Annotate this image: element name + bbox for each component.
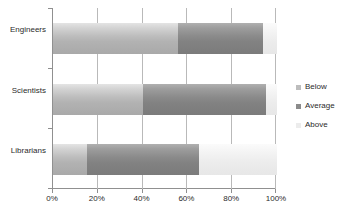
x-tick-60 <box>186 189 187 193</box>
legend-item-average[interactable]: Average <box>296 101 342 111</box>
bar-segment-above <box>199 144 277 175</box>
bar-segment-below <box>53 23 178 54</box>
bar-segment-below <box>53 144 87 175</box>
category-label-engineers: Engineers <box>10 25 46 35</box>
bar-row-engineers <box>53 23 277 54</box>
x-tick-40 <box>142 189 143 193</box>
legend-swatch-icon <box>296 123 301 128</box>
legend-item-label: Below <box>305 82 327 92</box>
plot-area <box>52 8 276 189</box>
bar-segment-average <box>87 144 199 175</box>
bar-row-librarians <box>53 144 277 175</box>
bar-segment-below <box>53 84 143 115</box>
y-tick-0 <box>48 8 52 9</box>
bar-segment-above <box>263 23 276 54</box>
legend-item-label: Average <box>305 101 335 111</box>
y-tick-1 <box>48 68 52 69</box>
x-tick-label-60: 60% <box>178 194 194 203</box>
x-tick-80 <box>231 189 232 193</box>
legend-swatch-icon <box>296 104 301 109</box>
legend: Below Average Above <box>296 82 342 139</box>
x-tick-label-0: 0% <box>46 194 58 203</box>
category-label-scientists: Scientists <box>12 86 46 96</box>
x-tick-label-20: 20% <box>89 194 105 203</box>
legend-item-below[interactable]: Below <box>296 82 342 92</box>
y-tick-2 <box>48 128 52 129</box>
x-tick-label-80: 80% <box>223 194 239 203</box>
bar-segment-average <box>178 23 263 54</box>
x-tick-0 <box>52 189 53 193</box>
x-tick-label-40: 40% <box>134 194 150 203</box>
stacked-bar-chart: Engineers Scientists Librarians 0% 20% 4… <box>0 0 342 216</box>
bar-row-scientists <box>53 84 277 115</box>
category-label-librarians: Librarians <box>11 146 46 156</box>
x-tick-20 <box>97 189 98 193</box>
legend-swatch-icon <box>296 85 301 90</box>
legend-item-above[interactable]: Above <box>296 120 342 130</box>
legend-item-label: Above <box>305 120 328 130</box>
x-axis-line <box>52 188 276 189</box>
x-tick-label-100: 100% <box>266 194 286 203</box>
x-tick-100 <box>275 189 276 193</box>
bar-segment-above <box>266 84 277 115</box>
bar-segment-average <box>143 84 266 115</box>
